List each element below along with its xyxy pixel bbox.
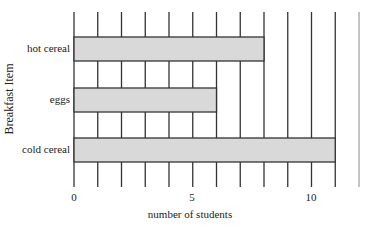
category-label-hot-cereal: hot cereal bbox=[0, 42, 70, 54]
x-tick-5: 5 bbox=[189, 191, 195, 203]
x-tick-10: 10 bbox=[306, 191, 317, 203]
bar-hot-cereal bbox=[74, 37, 264, 61]
category-label-cold-cereal: cold cereal bbox=[0, 143, 70, 155]
bar-eggs bbox=[74, 88, 217, 112]
bars bbox=[74, 37, 335, 162]
x-axis-title: number of students bbox=[148, 208, 232, 220]
y-axis-title: Breakfast Item bbox=[2, 64, 17, 135]
bar-cold-cereal bbox=[74, 138, 335, 162]
x-tick-0: 0 bbox=[71, 191, 77, 203]
